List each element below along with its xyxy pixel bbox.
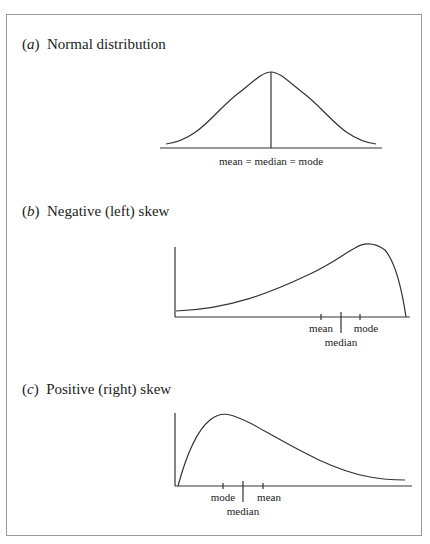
svg-text:mode: mode [354, 322, 379, 334]
svg-text:mean: mean [257, 491, 281, 503]
positive-skew-plot [175, 413, 412, 502]
normal-curve-plot [160, 72, 382, 148]
negative-skew-plot [175, 244, 410, 333]
svg-text:median: median [325, 336, 358, 348]
svg-text:mode: mode [211, 491, 236, 503]
positive-skew-curve [178, 414, 405, 486]
svg-text:mean = median = mode: mean = median = mode [219, 155, 323, 167]
negative-skew-curve [176, 244, 406, 317]
svg-text:mean: mean [309, 322, 333, 334]
distribution-diagrams: mean = median = mode mean median mode mo… [0, 0, 430, 544]
svg-text:median: median [227, 505, 260, 517]
